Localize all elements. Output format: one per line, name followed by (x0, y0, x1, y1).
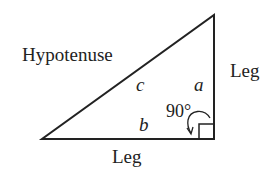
right-angle-marker (199, 124, 214, 139)
side-c-label: c (136, 74, 145, 95)
angle-label: 90° (166, 101, 191, 121)
vertical-leg-label: Leg (230, 60, 260, 81)
right-triangle-diagram: Hypotenuse Leg Leg c a b 90° (0, 0, 277, 180)
side-a-label: a (194, 74, 204, 95)
side-b-label: b (139, 114, 149, 135)
horizontal-leg-label: Leg (112, 146, 142, 167)
hypotenuse-label: Hypotenuse (22, 44, 113, 65)
